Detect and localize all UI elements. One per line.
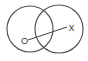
connector-line <box>28 27 67 40</box>
venn-diagram: O X <box>0 0 88 61</box>
right-circle <box>35 5 83 53</box>
left-circle <box>7 6 53 52</box>
label-x: X <box>69 23 75 33</box>
label-o: O <box>21 36 28 46</box>
